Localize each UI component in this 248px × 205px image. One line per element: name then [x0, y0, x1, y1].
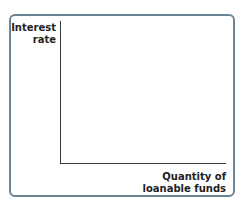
- y-axis-label-line2: rate: [11, 34, 56, 46]
- x-axis-label-line1: Quantity of: [143, 171, 226, 183]
- y-axis-label: Interest rate: [11, 22, 56, 46]
- x-axis-label-line2: loanable funds: [143, 183, 226, 195]
- x-axis: [60, 163, 226, 164]
- x-axis-label: Quantity of loanable funds: [143, 171, 226, 195]
- y-axis: [60, 21, 61, 164]
- y-axis-label-line1: Interest: [11, 22, 56, 34]
